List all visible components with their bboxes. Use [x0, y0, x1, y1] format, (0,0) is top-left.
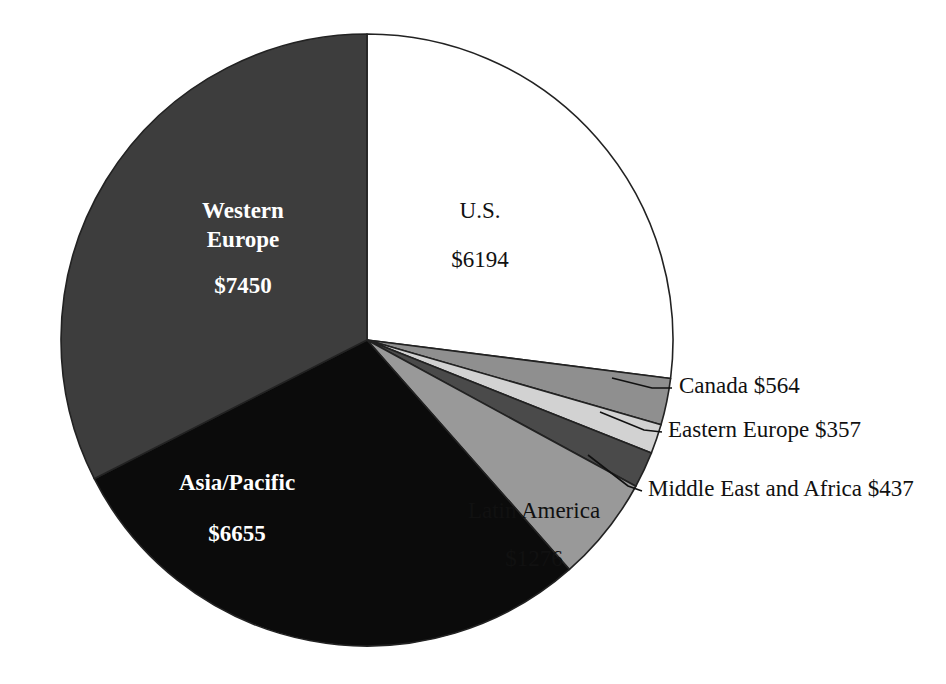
pie-chart-figure: U.S.$6194Canada $564Eastern Europe $357M…: [0, 0, 946, 684]
slice-value-latin-america: $1276: [505, 546, 563, 571]
slice-value-asia-pacific: $6655: [208, 521, 266, 546]
slice-label-western-europe-line2: Europe: [207, 227, 279, 252]
pie-slices-group: [61, 34, 673, 646]
slice-value-u-s: $6194: [451, 247, 509, 272]
slice-label-asia-pacific: Asia/Pacific: [179, 470, 295, 495]
pie-chart-canvas: U.S.$6194Canada $564Eastern Europe $357M…: [0, 0, 946, 684]
callout-label-eastern-europe: Eastern Europe $357: [668, 417, 861, 442]
callout-label-canada: Canada $564: [679, 373, 800, 398]
callout-label-middle-east-and-africa: Middle East and Africa $437: [648, 476, 914, 501]
slice-label-latin-america: Latin America: [468, 498, 600, 523]
slice-label-western-europe-line1: Western: [202, 198, 284, 223]
slice-value-western-europe: $7450: [214, 273, 272, 298]
slice-label-u-s: U.S.: [460, 198, 501, 223]
